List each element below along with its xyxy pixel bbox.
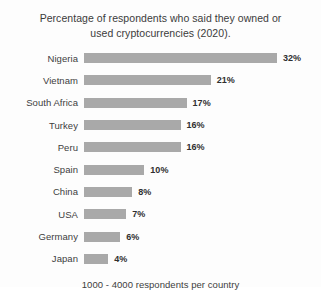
bar-row: South Africa17% <box>0 92 321 114</box>
bar-row: Peru16% <box>0 136 321 158</box>
chart-title-line-2: used cryptocurrencies (2020). <box>26 26 295 41</box>
bar-category-label: Germany <box>0 231 78 242</box>
bar-value-label: 6% <box>126 232 139 242</box>
bar-category-label: Nigeria <box>0 53 78 64</box>
bar-value-label: 21% <box>217 75 235 85</box>
bar-row: Turkey16% <box>0 114 321 136</box>
bar-track: 8% <box>84 187 321 197</box>
bar-value-label: 16% <box>187 142 205 152</box>
bar-value-label: 17% <box>193 98 211 108</box>
bar-row: Japan4% <box>0 248 321 270</box>
bar-track: 7% <box>84 209 321 219</box>
bar <box>84 254 108 264</box>
chart-title: Percentage of respondents who said they … <box>0 0 321 40</box>
bar-category-label: USA <box>0 209 78 220</box>
bar-category-label: Japan <box>0 253 78 264</box>
bar <box>84 75 211 85</box>
bar <box>84 142 181 152</box>
bar-track: 21% <box>84 75 321 85</box>
bar <box>84 98 187 108</box>
bar-row: Nigeria32% <box>0 47 321 69</box>
bar <box>84 232 120 242</box>
bar-category-label: Peru <box>0 142 78 153</box>
chart-plot-area: Nigeria32%Vietnam21%South Africa17%Turke… <box>0 47 321 270</box>
bar <box>84 53 277 63</box>
bar <box>84 165 144 175</box>
bar-row: Germany6% <box>0 225 321 247</box>
bar <box>84 209 126 219</box>
chart-footnote: 1000 - 4000 respondents per country <box>0 270 321 290</box>
bar-row: China8% <box>0 181 321 203</box>
bar-track: 17% <box>84 98 321 108</box>
bar-category-label: Turkey <box>0 120 78 131</box>
bar-track: 4% <box>84 254 321 264</box>
bar-track: 16% <box>84 120 321 130</box>
bar-value-label: 32% <box>283 53 301 63</box>
bar-value-label: 10% <box>150 165 168 175</box>
bar-category-label: Spain <box>0 164 78 175</box>
bar-category-label: South Africa <box>0 97 78 108</box>
bar-row: Vietnam21% <box>0 69 321 91</box>
bar-value-label: 8% <box>138 187 151 197</box>
bar-row: Spain10% <box>0 158 321 180</box>
bar-track: 32% <box>84 53 321 63</box>
bar <box>84 187 132 197</box>
bar <box>84 120 181 130</box>
bar-track: 6% <box>84 232 321 242</box>
bar-category-label: Vietnam <box>0 75 78 86</box>
bar-row: USA7% <box>0 203 321 225</box>
chart-title-line-1: Percentage of respondents who said they … <box>26 11 295 26</box>
bar-track: 10% <box>84 165 321 175</box>
bar-category-label: China <box>0 186 78 197</box>
bar-value-label: 7% <box>132 209 145 219</box>
bar-value-label: 16% <box>187 120 205 130</box>
bar-value-label: 4% <box>114 254 127 264</box>
bar-track: 16% <box>84 142 321 152</box>
